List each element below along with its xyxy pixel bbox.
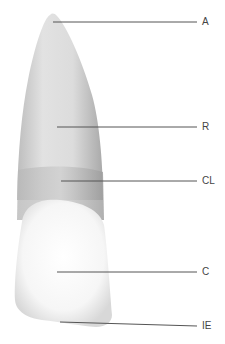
label-crown: C — [202, 267, 209, 277]
tooth-diagram — [0, 0, 225, 344]
label-cervical-line: CL — [202, 176, 215, 186]
tooth-crown — [15, 200, 112, 327]
label-root: R — [202, 122, 209, 132]
label-apex: A — [202, 17, 209, 27]
label-incisal-edge: IE — [202, 321, 211, 331]
